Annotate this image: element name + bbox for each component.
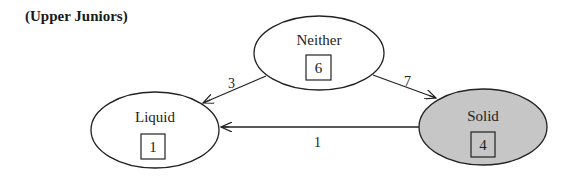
edge-neither-to-solid: 7 xyxy=(373,74,436,98)
node-neither: Neither 6 xyxy=(254,16,384,90)
node-label: Neither xyxy=(297,32,342,48)
node-label: Solid xyxy=(467,108,499,124)
edge-label: 1 xyxy=(314,135,321,150)
state-diagram: 3 7 1 Neither 6 Liquid 1 Solid 4 xyxy=(0,0,574,183)
node-count: 4 xyxy=(479,137,487,153)
node-count: 1 xyxy=(149,139,157,155)
node-solid: Solid 4 xyxy=(419,89,547,165)
edge-label: 3 xyxy=(228,76,235,91)
edge-solid-to-liquid: 1 xyxy=(221,127,419,150)
node-count: 6 xyxy=(315,60,323,76)
edge-neither-to-liquid: 3 xyxy=(203,76,266,103)
node-label: Liquid xyxy=(135,109,175,125)
edge-label: 7 xyxy=(404,74,411,89)
node-liquid: Liquid 1 xyxy=(91,92,219,168)
